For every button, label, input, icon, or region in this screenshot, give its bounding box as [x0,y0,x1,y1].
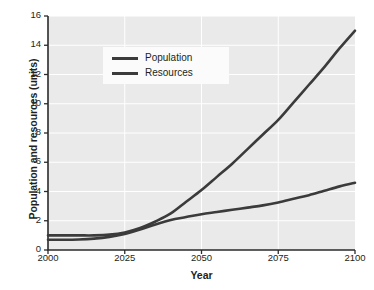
legend-label: Resources [145,68,193,78]
chart-container: Population and resources (units) Year 02… [0,0,374,290]
plot-area [0,0,374,290]
legend-swatch-icon [112,72,138,75]
x-tick-label: 2050 [191,252,212,263]
legend-entry-resources: Resources [112,66,193,80]
x-tick-label: 2100 [344,252,365,263]
legend-swatch-icon [112,57,138,60]
x-tick-label: 2000 [37,252,58,263]
x-tick-label: 2025 [114,252,135,263]
x-tick-label: 2075 [268,252,289,263]
legend-entry-population: Population [112,51,192,65]
chart-legend: Population Resources [103,47,229,84]
legend-label: Population [145,53,192,63]
